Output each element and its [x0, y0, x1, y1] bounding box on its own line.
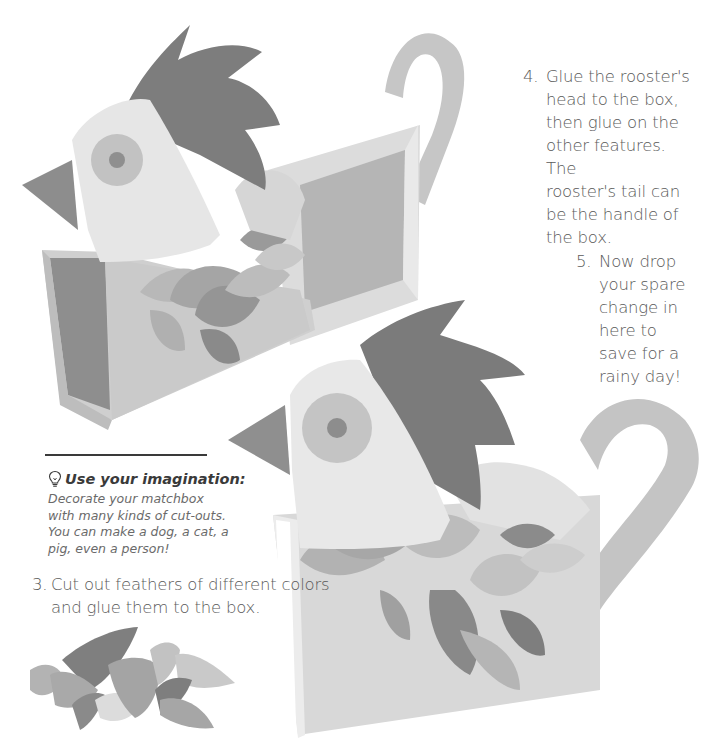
tip-heading-text: Use your imagination:: [65, 471, 246, 487]
feather-cutouts: [30, 627, 235, 730]
step-3-text: Cut out feathers of different colors and…: [32, 573, 272, 619]
step-4: 4. Glue the rooster's head to the box, t…: [523, 65, 698, 249]
lightbulb-icon: [48, 470, 62, 488]
step-3-number: 3.: [32, 573, 47, 596]
step-5-text: Now drop your spare change in here to sa…: [576, 250, 696, 388]
step-5: 5. Now drop your spare change in here to…: [576, 250, 696, 388]
step-4-number: 4.: [523, 65, 538, 88]
step-4-text: Glue the rooster's head to the box, then…: [523, 65, 698, 249]
tip-body: Decorate your matchbox with many kinds o…: [48, 491, 223, 557]
step-5-number: 5.: [576, 250, 591, 273]
tip-heading: Use your imagination:: [48, 470, 246, 488]
step-3: 3. Cut out feathers of different colors …: [32, 573, 272, 619]
tip-divider: [45, 454, 207, 456]
